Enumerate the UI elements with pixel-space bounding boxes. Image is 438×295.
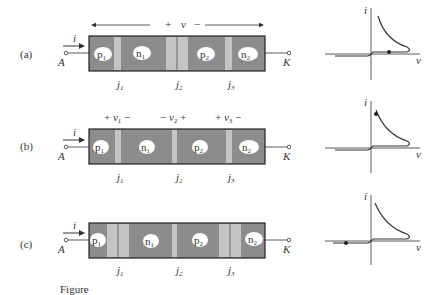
panel-c: (c) i A K p1 n1 p2 n2 j1 j2 j3 i v <box>20 190 421 278</box>
iv-graph-a: i v <box>325 4 421 80</box>
junction-j3: j3 <box>226 78 235 92</box>
junction-voltage-v3: + v3 − <box>215 111 241 125</box>
figure-caption: Figure <box>60 283 89 295</box>
anode-label: A <box>57 56 65 68</box>
current-label: i <box>73 32 76 44</box>
svg-text:K: K <box>282 243 291 255</box>
svg-text:j2: j2 <box>174 264 183 278</box>
svg-text:j3: j3 <box>226 264 235 278</box>
junction-voltage-v2: − v2 + <box>160 111 186 125</box>
operating-point-b <box>374 112 378 116</box>
panel-label-a: (a) <box>20 48 33 61</box>
svg-text:v: v <box>416 148 421 160</box>
voltage-v: v <box>181 18 186 30</box>
operating-point-a <box>387 50 391 54</box>
junction-j2: j2 <box>174 78 183 92</box>
panel-b: (b) + v1 − − v2 + + v3 − i A K p1 n1 p2 … <box>20 96 421 185</box>
svg-text:v: v <box>416 54 421 66</box>
iv-graph-c: i v <box>325 190 421 265</box>
thyristor-diagram: (a) + v − i A K p1 n1 p2 n2 j1 j2 <box>0 0 438 295</box>
svg-text:i: i <box>364 96 367 108</box>
svg-text:j1: j1 <box>115 264 124 278</box>
iv-graph-b: i v <box>325 96 421 173</box>
svg-text:v: v <box>416 241 421 253</box>
svg-text:K: K <box>282 150 291 162</box>
svg-text:j3: j3 <box>226 171 235 185</box>
svg-text:j2: j2 <box>174 171 183 185</box>
svg-text:i: i <box>364 190 367 202</box>
svg-text:A: A <box>57 150 65 162</box>
svg-text:i: i <box>364 4 367 16</box>
junction-j1: j1 <box>115 78 124 92</box>
svg-text:i: i <box>73 219 76 231</box>
panel-label-b: (b) <box>20 140 33 153</box>
panel-label-c: (c) <box>20 238 33 251</box>
svg-text:A: A <box>57 243 65 255</box>
svg-text:j1: j1 <box>115 171 124 185</box>
voltage-plus: + <box>165 18 171 30</box>
svg-text:i: i <box>73 126 76 138</box>
junction-voltage-v1: + v1 − <box>104 111 130 125</box>
cathode-label: K <box>282 56 291 68</box>
panel-a: (a) + v − i A K p1 n1 p2 n2 j1 j2 <box>20 4 421 92</box>
operating-point-c <box>344 241 348 245</box>
voltage-minus: − <box>194 18 200 30</box>
